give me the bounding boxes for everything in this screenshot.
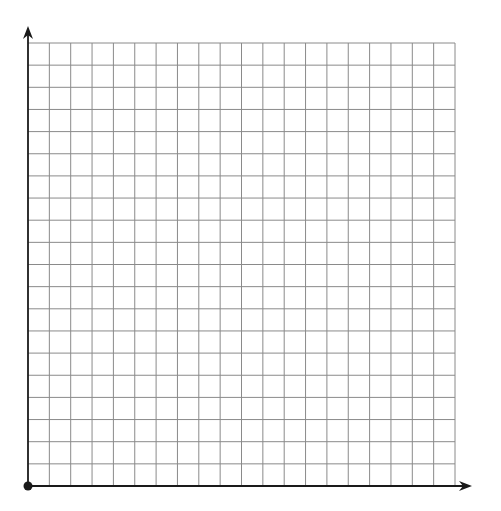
grid-lines <box>28 43 455 486</box>
coordinate-grid <box>0 0 501 511</box>
origin-point <box>24 482 33 491</box>
